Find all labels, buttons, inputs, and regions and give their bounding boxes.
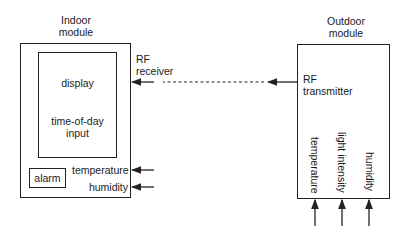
display-label: display [38,77,117,89]
outdoor-temperature-label: temperature [309,137,321,194]
time-of-day-input-label: time-of-day input [38,115,117,139]
indoor-humidity-label: humidity [72,181,128,193]
alarm-label: alarm [29,172,66,184]
indoor-temperature-label: temperature [72,164,128,176]
indoor-module-title: Indoor module [48,14,104,38]
rf-receiver-label: RF receiver [136,53,173,77]
display-input-box [38,52,117,158]
block-diagram: Indoor module display time-of-day input … [0,0,409,237]
outdoor-humidity-label: humidity [364,152,376,191]
outdoor-light-intensity-label: light intensity [336,132,348,193]
outdoor-module-title: Outdoor module [318,15,374,39]
rf-transmitter-label: RF transmitter [303,73,353,97]
